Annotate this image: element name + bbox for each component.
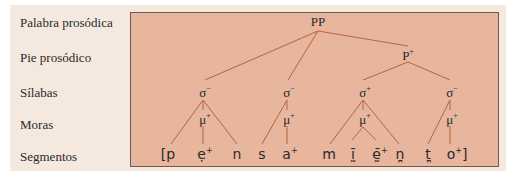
segment: ḭ̄ — [351, 146, 355, 162]
node-foot: P+ — [402, 47, 414, 64]
segment: t̪ — [425, 146, 431, 162]
segment: s — [258, 146, 265, 162]
segment: n — [233, 146, 242, 162]
node-syllable: σ+ — [359, 84, 371, 101]
node-syllable: σ− — [446, 84, 458, 101]
node-mora: μ+ — [359, 111, 371, 128]
node-mora: μ+ — [283, 111, 295, 128]
node-syllable: σ− — [283, 84, 295, 101]
segment: ḛ̄+ — [372, 146, 387, 162]
segment: [p — [161, 146, 175, 162]
bracket: ] — [462, 146, 467, 162]
segment: n̪ — [396, 146, 405, 162]
segment: a+ — [282, 146, 297, 162]
node-prosodic-word: PP — [311, 14, 325, 30]
segment: ẹ+ — [197, 146, 212, 162]
segment: m — [322, 146, 336, 162]
node-mora: μ+ — [446, 111, 458, 128]
segment: o+] — [447, 146, 468, 162]
node-syllable: σ− — [199, 84, 211, 101]
node-mora: μ+ — [199, 111, 211, 128]
